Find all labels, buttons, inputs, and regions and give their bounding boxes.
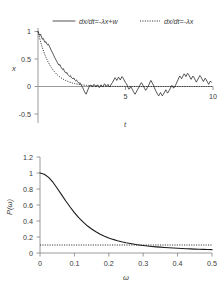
y-ticklabel-0p5: 0.5: [21, 55, 31, 64]
ps-y-ticklabel-0p2: 0.2: [23, 233, 33, 242]
ps-y-ticklabel-0p6: 0.6: [23, 201, 33, 210]
legend-label-solid: dx/dt=-λx+w: [79, 17, 119, 26]
ps-x-ticklabel-0p3: 0.3: [138, 259, 148, 268]
power-spectrum-svg: 1.2 1 0.8 0.6 0.4 0.2 0 P(ω) 0 0.1 0.2 0…: [0, 145, 220, 287]
chart-time-series: dx/dt=-λx+w dx/dt=-λx 1 0.5 0 -0.5 x: [0, 0, 220, 145]
ps-y-ticklabel-1p2: 1.2: [23, 153, 33, 162]
ps-y-axis-ticks: [37, 157, 41, 253]
y-ticklabel-1: 1: [27, 27, 31, 36]
y-axis-ticks: [35, 32, 39, 115]
ps-x-ticklabel-0p2: 0.2: [104, 259, 114, 268]
ps-x-ticklabel-0p4: 0.4: [173, 259, 183, 268]
x-ticklabel-10: 10: [209, 92, 217, 101]
series-deterministic-path: [38, 32, 213, 87]
y-axis-title: x: [11, 64, 17, 73]
spectrum-curve: [40, 173, 212, 250]
ps-x-axis-ticks: [40, 253, 212, 257]
ps-x-ticklabel-0: 0: [38, 259, 42, 268]
y-ticklabel-0: 0: [27, 82, 31, 91]
ps-y-ticklabel-1: 1: [29, 169, 33, 178]
ps-y-ticklabel-0: 0: [29, 249, 33, 258]
ps-x-ticklabel-0p1: 0.1: [69, 259, 79, 268]
ps-x-axis-title: ω: [123, 273, 129, 282]
y-ticklabel-neg0p5: -0.5: [19, 110, 31, 119]
ps-y-axis-title: P(ω): [5, 199, 14, 216]
time-series-svg: dx/dt=-λx+w dx/dt=-λx 1 0.5 0 -0.5 x: [0, 0, 220, 145]
legend: dx/dt=-λx+w dx/dt=-λx: [53, 17, 194, 26]
ps-y-ticklabel-0p4: 0.4: [23, 217, 33, 226]
x-axis-title: t: [124, 120, 127, 129]
chart-power-spectrum: 1.2 1 0.8 0.6 0.4 0.2 0 P(ω) 0 0.1 0.2 0…: [0, 145, 220, 287]
ps-y-ticklabel-0p8: 0.8: [23, 185, 33, 194]
x-ticklabel-5: 5: [124, 92, 128, 101]
ps-x-ticklabel-0p5: 0.5: [207, 259, 217, 268]
figure-container: dx/dt=-λx+w dx/dt=-λx 1 0.5 0 -0.5 x: [0, 0, 220, 287]
legend-label-dotted: dx/dt=-λx: [164, 17, 194, 26]
